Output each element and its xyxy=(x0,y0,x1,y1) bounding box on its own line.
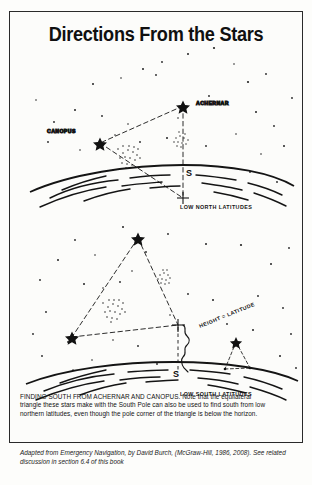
star-left-lower xyxy=(65,332,79,345)
upper-ground-hatching xyxy=(40,175,286,207)
figure-attribution: Adapted from Emergency Navigation, by Da… xyxy=(20,449,298,466)
lower-triangle xyxy=(72,238,178,337)
small-triangle-corner-dots xyxy=(224,367,252,371)
upper-horizon-line xyxy=(30,165,294,192)
caption-line-1: FINDING SOUTH FROM ACHERNAR AND CANOPUS.… xyxy=(20,393,292,401)
lower-star-cluster-upper xyxy=(157,269,170,284)
upper-horizon-label: LOW NORTH LATITUDES xyxy=(180,204,252,210)
star-apex-lower xyxy=(131,233,145,246)
star-label-canopus: CANOPUS xyxy=(47,128,76,134)
star-canopus xyxy=(93,138,107,151)
lower-diagram-group: HEIGHT = LATITUDE xyxy=(26,226,298,400)
upper-background-stars xyxy=(35,47,293,183)
upper-star-cluster-left xyxy=(117,145,141,169)
upper-star-cluster-right xyxy=(173,131,188,147)
star-achernar xyxy=(176,101,190,114)
star-small-triangle-apex xyxy=(230,337,242,349)
height-latitude-label-group: HEIGHT = LATITUDE xyxy=(198,301,255,329)
small-reference-triangle xyxy=(225,342,250,369)
caption-line-2: triangle these stars make with the South… xyxy=(20,401,292,409)
lower-pole-label-s: S xyxy=(173,369,179,379)
page-title: Directions From the Stars xyxy=(20,23,292,46)
figure-frame: Directions From the Stars xyxy=(9,11,303,443)
upper-pole-cross xyxy=(177,192,189,204)
lower-horizon-line xyxy=(26,362,298,384)
star-label-achernar: ACHERNAR xyxy=(196,100,229,106)
figure-caption: FINDING SOUTH FROM ACHERNAR AND CANOPUS.… xyxy=(20,393,292,418)
upper-diagram-group: ACHERNAR CANOPUS xyxy=(30,47,294,210)
lower-star-cluster-lower xyxy=(102,299,126,323)
lower-background-stars xyxy=(32,226,297,371)
caption-line-3: northern latitudes, even though the pole… xyxy=(20,410,292,418)
upper-pole-label-s: S xyxy=(186,168,192,178)
star-chart-illustration: ACHERNAR CANOPUS xyxy=(10,12,303,443)
lower-pole-cross xyxy=(172,319,185,332)
upper-triangle xyxy=(100,106,183,198)
height-latitude-label: HEIGHT = LATITUDE xyxy=(198,301,255,329)
height-brace xyxy=(182,325,190,372)
